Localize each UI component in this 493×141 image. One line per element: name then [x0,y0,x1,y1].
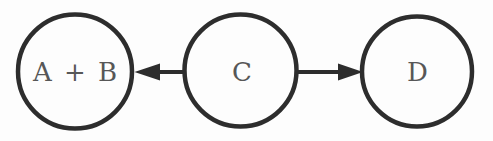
node-c-label: C [232,57,254,87]
node-d-label: D [407,57,430,87]
arrow-c-to-ab [135,64,185,81]
graph-svg: A + B C D [0,0,493,141]
node-c: C [185,15,297,127]
node-a-plus-b: A + B [18,15,132,129]
node-d: D [362,17,472,127]
diagram-canvas: A + B C D [0,0,493,141]
arrow-c-to-d [297,64,363,81]
node-a-plus-b-label: A + B [32,57,119,87]
arrow-left-head-icon [135,64,161,81]
arrow-right-head-icon [338,64,363,81]
